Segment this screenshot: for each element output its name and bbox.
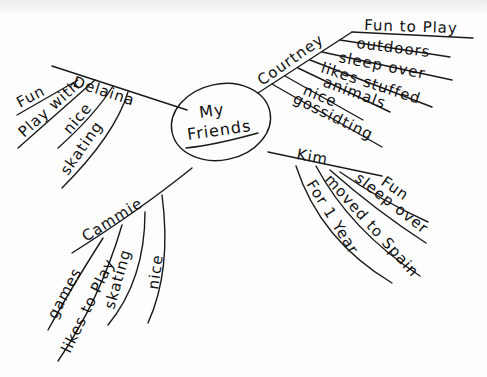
branch-label: Courtney bbox=[254, 30, 327, 89]
center-title-line1: My bbox=[198, 100, 226, 122]
branch-courtney: Courtney Fun to Play outdoors sleep over… bbox=[254, 16, 473, 147]
item-text: Fun to Play bbox=[364, 16, 458, 37]
center-node: My Friends bbox=[164, 74, 278, 169]
branch-kim: Kim Fun sleep over moved to Spain For 1 … bbox=[268, 145, 432, 283]
center-title-line2: Friends bbox=[186, 116, 253, 144]
branch-cammie: Cammie games likes to Play skating nice bbox=[44, 168, 192, 361]
branch-label: Kim bbox=[295, 145, 329, 168]
mind-map-drawing: My Friends Delaina Fun Play with nice sk… bbox=[0, 0, 487, 377]
mind-map-page: My Friends Delaina Fun Play with nice sk… bbox=[0, 0, 487, 377]
branch-label: Cammie bbox=[79, 194, 146, 245]
branch-delaina: Delaina Fun Play with nice skating bbox=[13, 66, 187, 188]
item-text: nice bbox=[144, 253, 167, 290]
